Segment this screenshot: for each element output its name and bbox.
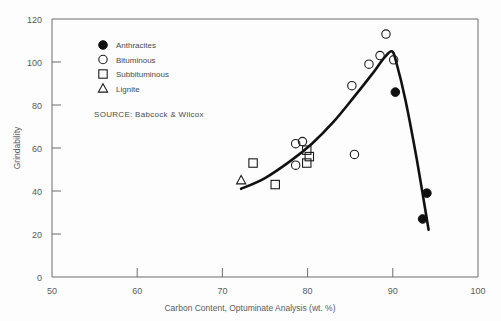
y-tick-label: 20: [32, 230, 42, 240]
data-point-subbituminous: [271, 180, 279, 188]
data-point-anthracites: [391, 88, 400, 97]
data-point-subbituminous: [305, 152, 313, 160]
y-tick-label: 120: [27, 15, 42, 25]
y-tick-label: 60: [32, 144, 42, 154]
legend-marker-bituminous: [99, 55, 107, 63]
data-point-bituminous: [382, 30, 390, 38]
legend-marker-subbituminous: [99, 70, 107, 78]
x-tick-label: 50: [47, 286, 57, 296]
chart-canvas: 0204060801001205060708090100Grindability…: [0, 0, 501, 321]
trend-curve: [241, 51, 429, 230]
legend-label-subbituminous: Subbituminous: [116, 70, 169, 79]
data-point-bituminous: [365, 60, 373, 68]
y-tick-label: 40: [32, 187, 42, 197]
x-tick-label: 100: [470, 286, 485, 296]
y-tick-label: 80: [32, 101, 42, 111]
data-point-anthracites: [423, 189, 432, 198]
source-note: SOURCE: Babcock & Wilcox: [94, 110, 204, 119]
data-point-subbituminous: [249, 159, 257, 167]
data-point-bituminous: [350, 150, 358, 158]
data-point-anthracites: [418, 215, 427, 224]
x-tick-label: 80: [303, 286, 313, 296]
data-point-bituminous: [376, 51, 384, 59]
x-tick-label: 90: [388, 286, 398, 296]
y-axis-title: Grindability: [12, 126, 22, 169]
y-tick-label: 0: [37, 273, 42, 283]
data-point-bituminous: [348, 81, 356, 89]
legend-label-lignite: Lignite: [116, 85, 140, 94]
legend-label-bituminous: Bituminous: [116, 56, 156, 65]
x-axis-title: Carbon Content, Optuminate Analysis (wt.…: [164, 303, 335, 313]
y-tick-label: 100: [27, 58, 42, 68]
data-point-subbituminous: [303, 159, 311, 167]
legend-marker-anthracites: [99, 41, 108, 50]
legend-label-anthracites: Anthracites: [116, 41, 156, 50]
data-point-bituminous: [291, 161, 299, 169]
data-point-lignite: [237, 175, 246, 183]
x-tick-label: 60: [132, 286, 142, 296]
legend-marker-lignite: [98, 84, 107, 92]
grindability-vs-carbon-content-chart: 0204060801001205060708090100Grindability…: [0, 0, 501, 321]
x-tick-label: 70: [217, 286, 227, 296]
